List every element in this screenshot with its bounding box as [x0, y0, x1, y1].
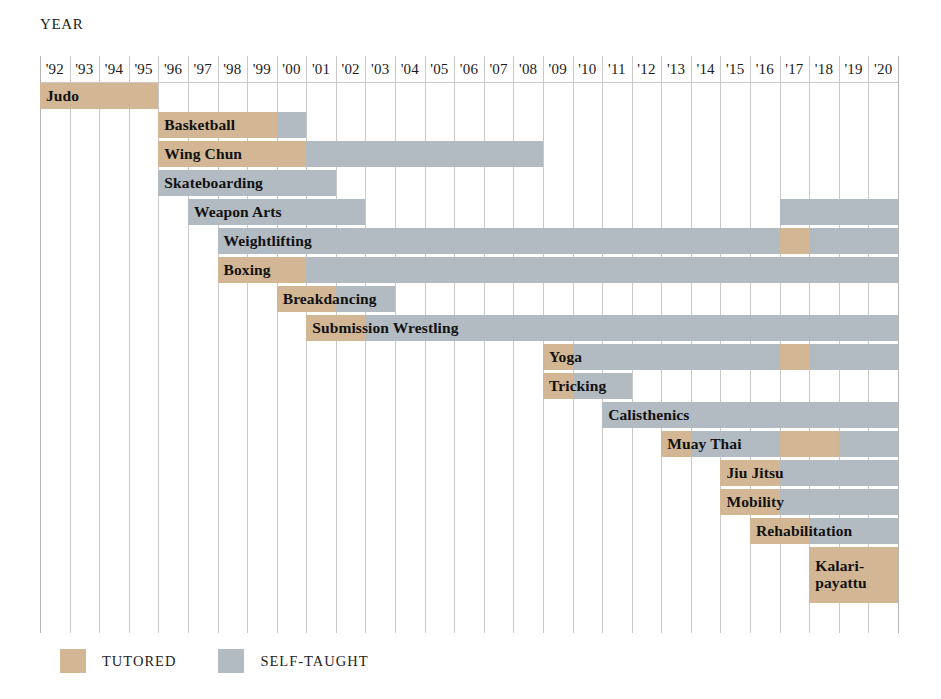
activity-label: Wing Chun — [164, 146, 242, 162]
gantt-chart: YEAR '92'93'94'95'96'97'98'99'00'01'02'0… — [0, 0, 941, 699]
axis-title-year: YEAR — [40, 16, 83, 33]
year-tick-label: '16 — [750, 56, 780, 82]
activity-label: Calisthenics — [608, 407, 689, 423]
year-tick-label: '19 — [839, 56, 869, 82]
year-tick-label: '05 — [425, 56, 455, 82]
activity-label: Kalari- payattu — [815, 558, 867, 591]
bar-segment-self[interactable] — [780, 199, 898, 225]
year-tick-label: '04 — [395, 56, 425, 82]
activity-row[interactable]: Wing Chun — [40, 141, 898, 167]
year-tick-label: '97 — [188, 56, 218, 82]
activity-label: Yoga — [549, 349, 582, 365]
year-tick-label: '94 — [99, 56, 129, 82]
year-tick-label: '09 — [543, 56, 573, 82]
year-tick-label: '11 — [602, 56, 632, 82]
activity-row[interactable]: Kalari- payattu — [40, 547, 898, 603]
legend-item-tutored[interactable]: TUTORED — [60, 649, 218, 673]
activity-label: Submission Wrestling — [312, 320, 458, 336]
bar-segment-self[interactable] — [780, 489, 898, 515]
activity-label: Skateboarding — [164, 175, 263, 191]
year-axis-header: '92'93'94'95'96'97'98'99'00'01'02'03'04'… — [40, 56, 898, 82]
year-tick-label: '12 — [632, 56, 662, 82]
year-tick-label: '02 — [336, 56, 366, 82]
bar-segment-self[interactable] — [306, 141, 543, 167]
activity-label: Tricking — [549, 378, 606, 394]
year-tick-label: '96 — [158, 56, 188, 82]
year-tick-label: '20 — [868, 56, 898, 82]
activity-label: Basketball — [164, 117, 235, 133]
activity-row[interactable]: Weapon Arts — [40, 199, 898, 225]
bar-segment-self[interactable] — [277, 112, 307, 138]
year-tick-label: '13 — [661, 56, 691, 82]
legend-label-self: SELF-TAUGHT — [260, 653, 368, 670]
activity-row[interactable]: Basketball — [40, 112, 898, 138]
bar-segment-self[interactable] — [839, 431, 898, 457]
activity-label: Jiu Jitsu — [726, 465, 783, 481]
legend-swatch-tutored — [60, 649, 86, 673]
legend-label-tutored: TUTORED — [102, 653, 176, 670]
bar-segment-self[interactable] — [573, 344, 780, 370]
activity-row[interactable]: Rehabilitation — [40, 518, 898, 544]
year-tick-label: '92 — [40, 56, 70, 82]
plot-area: '92'93'94'95'96'97'98'99'00'01'02'03'04'… — [40, 56, 898, 633]
year-tick-label: '15 — [720, 56, 750, 82]
activity-label: Rehabilitation — [756, 523, 852, 539]
activity-row[interactable]: Skateboarding — [40, 170, 898, 196]
activity-label: Judo — [46, 88, 79, 104]
year-tick-label: '18 — [809, 56, 839, 82]
year-tick-label: '93 — [70, 56, 100, 82]
bar-segment-tutored[interactable] — [780, 228, 810, 254]
activity-row[interactable]: Breakdancing — [40, 286, 898, 312]
year-tick-label: '00 — [277, 56, 307, 82]
bar-segment-self[interactable] — [780, 460, 898, 486]
activity-label: Breakdancing — [283, 291, 377, 307]
activity-rows: JudoBasketballWing ChunSkateboardingWeap… — [40, 83, 898, 633]
year-tick-label: '98 — [218, 56, 248, 82]
activity-row[interactable]: Yoga — [40, 344, 898, 370]
year-tick-label: '10 — [573, 56, 603, 82]
year-tick-label: '06 — [454, 56, 484, 82]
year-tick-label: '01 — [306, 56, 336, 82]
year-tick-label: '03 — [365, 56, 395, 82]
activity-row[interactable]: Weightlifting — [40, 228, 898, 254]
legend-item-self[interactable]: SELF-TAUGHT — [218, 649, 410, 673]
activity-row[interactable]: Tricking — [40, 373, 898, 399]
gridline — [898, 56, 899, 633]
year-tick-label: '07 — [484, 56, 514, 82]
activity-label: Weightlifting — [224, 233, 312, 249]
year-tick-label: '17 — [780, 56, 810, 82]
bar-segment-self[interactable] — [809, 228, 898, 254]
bar-segment-self[interactable] — [306, 257, 898, 283]
activity-row[interactable]: Judo — [40, 83, 898, 109]
bar-segment-self[interactable] — [809, 344, 898, 370]
activity-label: Mobility — [726, 494, 784, 510]
activity-label: Muay Thai — [667, 436, 741, 452]
activity-row[interactable]: Mobility — [40, 489, 898, 515]
activity-row[interactable]: Boxing — [40, 257, 898, 283]
activity-label: Boxing — [224, 262, 271, 278]
year-tick-label: '95 — [129, 56, 159, 82]
year-tick-label: '99 — [247, 56, 277, 82]
activity-row[interactable]: Muay Thai — [40, 431, 898, 457]
activity-row[interactable]: Submission Wrestling — [40, 315, 898, 341]
activity-row[interactable]: Jiu Jitsu — [40, 460, 898, 486]
year-tick-label: '08 — [513, 56, 543, 82]
bar-segment-tutored[interactable] — [780, 431, 839, 457]
bar-segment-tutored[interactable] — [780, 344, 810, 370]
legend-swatch-self — [218, 649, 244, 673]
activity-label: Weapon Arts — [194, 204, 282, 220]
activity-row[interactable]: Calisthenics — [40, 402, 898, 428]
year-tick-label: '14 — [691, 56, 721, 82]
legend: TUTOREDSELF-TAUGHT — [60, 648, 411, 674]
